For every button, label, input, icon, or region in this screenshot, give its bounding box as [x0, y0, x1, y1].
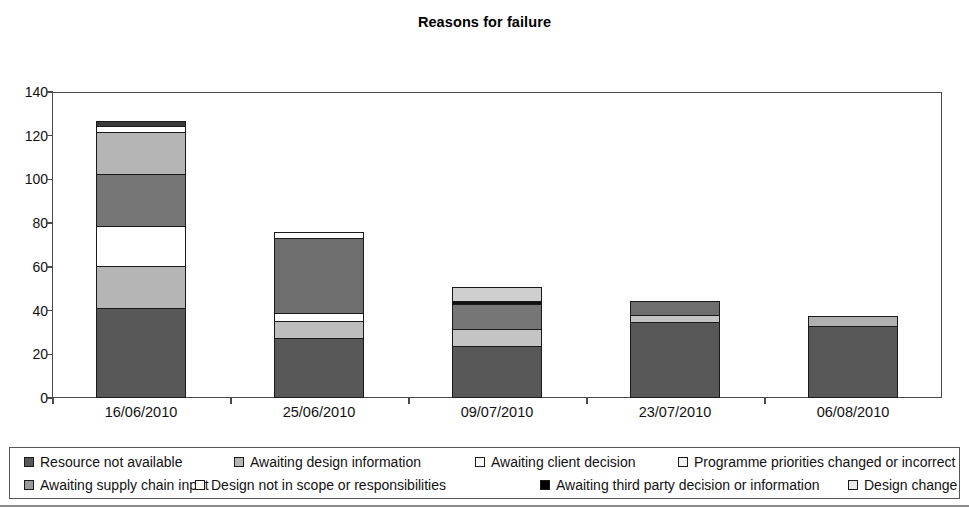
x-axis-tick-label: 25/06/2010	[230, 404, 408, 420]
bar-segment[interactable]	[96, 132, 186, 176]
bar-segment[interactable]	[274, 238, 364, 315]
bar-segment[interactable]	[808, 326, 898, 398]
y-axis-tick-label: 0	[4, 391, 48, 405]
y-axis-tick-label: 120	[4, 129, 48, 143]
y-axis-tick-label: 20	[4, 347, 48, 361]
y-axis-tick-label: 40	[4, 304, 48, 318]
legend-item[interactable]: Design not in scope or responsibilities	[195, 478, 446, 492]
bar-segment[interactable]	[274, 338, 364, 398]
bar-segment[interactable]	[96, 308, 186, 398]
chart-container: Reasons for failure 020406080100120140 1…	[0, 0, 969, 510]
legend-swatch-icon	[24, 480, 34, 490]
y-axis-tick-label: 80	[4, 216, 48, 230]
x-axis-tick-label: 09/07/2010	[408, 404, 586, 420]
y-axis-labels: 020406080100120140	[0, 92, 48, 398]
legend-item[interactable]: Programme priorities changed or incorrec…	[678, 455, 955, 469]
bar-group[interactable]	[586, 92, 764, 398]
legend-item[interactable]: Awaiting third party decision or informa…	[540, 478, 820, 492]
legend-swatch-icon	[540, 480, 550, 490]
legend-swatch-icon	[24, 457, 34, 467]
bar-segment[interactable]	[96, 266, 186, 310]
legend-item[interactable]: Awaiting client decision	[475, 455, 636, 469]
legend-row: Awaiting supply chain inputDesign not in…	[10, 473, 959, 497]
legend-label: Awaiting supply chain input	[40, 478, 209, 492]
bar-segment[interactable]	[452, 304, 542, 330]
legend-item[interactable]: Awaiting design information	[234, 455, 421, 469]
legend-label: Awaiting design information	[250, 455, 421, 469]
y-axis-tick-label: 140	[4, 85, 48, 99]
bar-group[interactable]	[408, 92, 586, 398]
legend-label: Design not in scope or responsibilities	[211, 478, 446, 492]
legend-swatch-icon	[234, 457, 244, 467]
x-axis-tick-label: 06/08/2010	[764, 404, 942, 420]
legend-label: Design change	[864, 478, 957, 492]
legend-swatch-icon	[195, 480, 205, 490]
stacked-bar[interactable]	[630, 301, 720, 398]
chart-legend: Resource not availableAwaiting design in…	[9, 447, 960, 499]
bar-segment[interactable]	[96, 226, 186, 268]
bar-group[interactable]	[230, 92, 408, 398]
legend-swatch-icon	[848, 480, 858, 490]
stacked-bar[interactable]	[96, 121, 186, 398]
y-axis-tick-label: 100	[4, 172, 48, 186]
chart-title: Reasons for failure	[0, 14, 969, 30]
bar-segment[interactable]	[452, 329, 542, 346]
legend-swatch-icon	[475, 457, 485, 467]
x-axis-labels: 16/06/201025/06/201009/07/201023/07/2010…	[52, 402, 942, 428]
stacked-bar[interactable]	[274, 232, 364, 398]
legend-label: Resource not available	[40, 455, 182, 469]
legend-label: Awaiting third party decision or informa…	[556, 478, 820, 492]
legend-item[interactable]: Awaiting supply chain input	[24, 478, 209, 492]
bar-group[interactable]	[764, 92, 942, 398]
bar-segment[interactable]	[274, 321, 364, 340]
y-axis-tick-label: 60	[4, 260, 48, 274]
legend-item[interactable]: Resource not available	[24, 455, 182, 469]
bar-segment[interactable]	[630, 301, 720, 316]
legend-label: Programme priorities changed or incorrec…	[694, 455, 955, 469]
x-axis-tick-label: 23/07/2010	[586, 404, 764, 420]
legend-swatch-icon	[678, 457, 688, 467]
bar-segment[interactable]	[452, 287, 542, 302]
legend-item[interactable]: Design change	[848, 478, 957, 492]
bar-segment[interactable]	[630, 322, 720, 399]
bar-segment[interactable]	[96, 174, 186, 226]
page-divider	[0, 505, 969, 507]
bar-group[interactable]	[52, 92, 230, 398]
legend-row: Resource not availableAwaiting design in…	[10, 450, 959, 474]
stacked-bar[interactable]	[808, 316, 898, 398]
stacked-bar[interactable]	[452, 287, 542, 398]
bars-layer	[52, 92, 942, 398]
x-axis-tick-label: 16/06/2010	[52, 404, 230, 420]
legend-label: Awaiting client decision	[491, 455, 636, 469]
bar-segment[interactable]	[452, 346, 542, 398]
